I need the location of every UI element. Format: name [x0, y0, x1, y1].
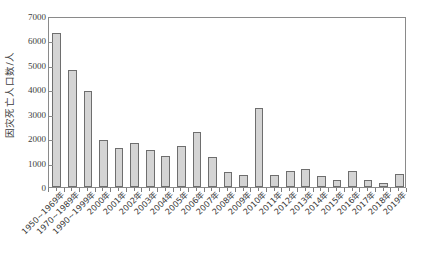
- bar: [395, 174, 404, 187]
- bar: [115, 148, 124, 187]
- x-axis-tick-labels: 1950~1969年1970~1989年1990~1999年2000年2001年…: [0, 190, 421, 255]
- bar: [255, 108, 264, 187]
- bar: [379, 183, 388, 187]
- y-axis-tick-label: 2000: [16, 135, 46, 144]
- bar: [286, 171, 295, 187]
- y-axis-tickmark: [49, 165, 53, 166]
- y-axis-tick-labels: 01000200030004000500060007000: [16, 0, 46, 195]
- bar: [317, 176, 326, 187]
- bar: [146, 150, 155, 187]
- y-axis-tick-label: 5000: [16, 61, 46, 70]
- bar: [161, 156, 170, 187]
- y-axis-tick-label: 1000: [16, 159, 46, 168]
- y-axis-tickmark: [49, 140, 53, 141]
- bar: [364, 180, 373, 187]
- bar: [333, 180, 342, 187]
- y-axis-tick-label: 3000: [16, 110, 46, 119]
- bar: [193, 132, 202, 187]
- bar: [348, 171, 357, 187]
- y-axis-tickmark: [49, 91, 53, 92]
- bar: [52, 33, 61, 187]
- bar: [99, 140, 108, 187]
- y-axis-tick-label: 4000: [16, 86, 46, 95]
- bars-layer: [49, 18, 405, 187]
- bar: [224, 172, 233, 187]
- bar: [177, 146, 186, 187]
- y-axis-tickmark: [49, 116, 53, 117]
- bar: [239, 175, 248, 187]
- bar: [270, 175, 279, 187]
- bar: [84, 91, 93, 187]
- y-axis-title-label: 因灾死亡人口数/人: [2, 52, 16, 139]
- bar: [68, 70, 77, 187]
- bar: [208, 157, 217, 187]
- bar: [130, 143, 139, 187]
- plot-area: [48, 17, 406, 188]
- y-axis-tick-label: 7000: [16, 13, 46, 22]
- bar: [301, 169, 310, 187]
- y-axis-tickmark: [49, 42, 53, 43]
- bar-chart: 因灾死亡人口数/人 01000200030004000500060007000 …: [0, 0, 421, 255]
- y-axis-tick-label: 6000: [16, 37, 46, 46]
- y-axis-tickmark: [49, 67, 53, 68]
